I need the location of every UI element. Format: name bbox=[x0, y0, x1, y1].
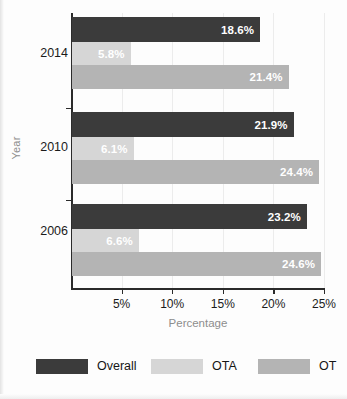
legend-swatch-ot bbox=[258, 359, 310, 374]
x-axis-tick-label-5: 5% bbox=[102, 297, 142, 311]
bar-value-2010-ot: 24.4% bbox=[280, 166, 313, 178]
gridline-15 bbox=[223, 13, 224, 288]
legend-swatch-overall bbox=[36, 359, 88, 374]
bar-value-2006-overall: 23.2% bbox=[268, 211, 301, 223]
gridline-25 bbox=[324, 13, 325, 288]
legend-item-ot: OT bbox=[258, 355, 336, 377]
legend-item-ota: OTA bbox=[151, 355, 237, 377]
bar-2010-ot: 24.4% bbox=[72, 160, 319, 184]
bar-value-2006-ot: 24.6% bbox=[282, 258, 315, 270]
chart-legend: Overall OTA OT bbox=[0, 355, 347, 381]
x-axis-tick-15 bbox=[223, 288, 224, 294]
x-axis-line bbox=[71, 288, 325, 290]
y-axis-label-2014: 2014 bbox=[24, 46, 68, 60]
scan-edge-left bbox=[0, 0, 4, 399]
bar-value-2014-ot: 21.4% bbox=[249, 71, 282, 83]
x-axis-tick-label-15: 15% bbox=[203, 297, 243, 311]
y-axis-tick-1 bbox=[66, 200, 72, 201]
legend-label-overall: Overall bbox=[97, 359, 137, 373]
y-axis-tick-0 bbox=[66, 108, 72, 109]
bar-value-2014-ota: 5.8% bbox=[98, 48, 125, 60]
x-axis-tick-20 bbox=[273, 288, 274, 294]
bar-2014-ot: 21.4% bbox=[72, 65, 289, 89]
legend-label-ot: OT bbox=[319, 359, 336, 373]
gridline-10 bbox=[172, 13, 173, 288]
y-axis-label-2006: 2006 bbox=[24, 224, 68, 238]
bar-2014-overall: 18.6% bbox=[72, 17, 260, 42]
bar-2006-ota: 6.6% bbox=[72, 229, 139, 252]
bar-value-2014-overall: 18.6% bbox=[221, 24, 254, 36]
x-axis-tick-10 bbox=[172, 288, 173, 294]
x-axis-tick-5 bbox=[122, 288, 123, 294]
bar-2010-ota: 6.1% bbox=[72, 137, 134, 160]
grouped-bar-chart: Year 2014 2010 2006 5% 10% 15% 20% 25% bbox=[0, 0, 347, 399]
bar-value-2010-ota: 6.1% bbox=[101, 143, 128, 155]
legend-swatch-ota bbox=[151, 359, 203, 374]
x-axis-tick-label-10: 10% bbox=[152, 297, 192, 311]
y-axis-label-2010: 2010 bbox=[24, 140, 68, 154]
bar-2006-ot: 24.6% bbox=[72, 252, 321, 276]
y-axis-category-labels: 2014 2010 2006 bbox=[18, 0, 68, 289]
plot-area: 5% 10% 15% 20% 25% 18.6% 5.8% 21.4% 21.9… bbox=[71, 13, 325, 289]
x-axis-tick-25 bbox=[324, 288, 325, 294]
x-axis-tick-label-25: 25% bbox=[304, 297, 344, 311]
bar-2010-overall: 21.9% bbox=[72, 112, 294, 137]
scan-edge-bottom bbox=[0, 394, 347, 399]
x-axis-title: Percentage bbox=[71, 317, 325, 329]
bar-2006-overall: 23.2% bbox=[72, 204, 307, 229]
bar-value-2006-ota: 6.6% bbox=[106, 235, 133, 247]
bar-value-2010-overall: 21.9% bbox=[254, 119, 287, 131]
x-axis-tick-label-20: 20% bbox=[253, 297, 293, 311]
legend-label-ota: OTA bbox=[212, 359, 237, 373]
gridline-20 bbox=[273, 13, 274, 288]
bar-2014-ota: 5.8% bbox=[72, 42, 131, 65]
legend-item-overall: Overall bbox=[36, 355, 137, 377]
